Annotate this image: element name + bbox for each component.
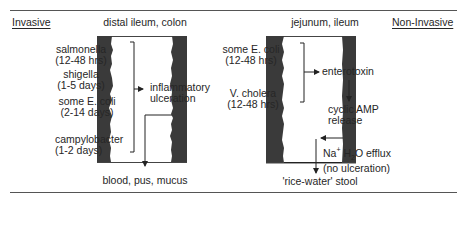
invasive-output-label: blood, pus, mucus <box>90 175 200 186</box>
organism-salmonella: salmonella (12-48 hrs) <box>48 44 114 66</box>
organism-campylobacter: campylobacter (1-2 days) <box>55 134 123 156</box>
organism-e-coli-invasive: some E. coli (2-14 days) <box>54 96 120 118</box>
organism-shigella: shigella (1-5 days) <box>48 69 114 91</box>
organism-v-cholera: V. cholera (12-48 hrs) <box>222 88 284 110</box>
organism-e-coli-noninvasive: some E. coli (12-48 hrs) <box>218 44 284 66</box>
cyclic-amp-label: cyclic AMP release <box>328 104 379 126</box>
efflux-label: Na+ H2O efflux (no ulceration) <box>323 144 391 174</box>
non-invasive-output-label: 'rice-water' stool <box>265 176 375 187</box>
enterotoxin-label: enterotoxin <box>322 66 374 77</box>
inflammatory-ulceration-label: inflammatory ulceration <box>150 82 210 104</box>
